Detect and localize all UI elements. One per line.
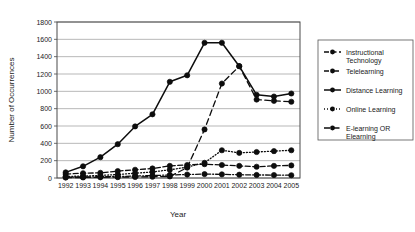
legend-label-line2: Technology xyxy=(346,57,382,65)
data-point xyxy=(219,148,224,153)
data-point xyxy=(219,172,224,177)
data-point xyxy=(237,64,242,69)
data-point xyxy=(219,162,224,167)
chart-legend: InstructionalTechnologyTelelearningDista… xyxy=(318,40,413,141)
x-tick-label: 1992 xyxy=(58,182,74,189)
y-tick-label: 400 xyxy=(40,140,52,147)
data-point xyxy=(271,98,276,103)
data-point xyxy=(237,163,242,168)
y-tick-label: 1600 xyxy=(36,36,52,43)
legend-label: E-learning OR xyxy=(346,125,390,133)
data-point xyxy=(185,172,190,177)
y-tick-label: 1800 xyxy=(36,19,52,26)
x-axis-title: Year xyxy=(170,210,187,219)
x-axis-tick-labels: 1992199319941995199619971998199920002001… xyxy=(58,182,299,189)
x-tick-label: 2005 xyxy=(284,182,300,189)
data-point xyxy=(167,167,172,172)
y-tick-label: 600 xyxy=(40,123,52,130)
data-point xyxy=(237,150,242,155)
data-point xyxy=(237,172,242,177)
data-point xyxy=(80,164,85,169)
y-axis-title: Number of Occurrences xyxy=(7,58,16,143)
legend-marker-sample xyxy=(330,126,335,131)
data-point xyxy=(115,142,120,147)
legend-label-line2: Elearning xyxy=(346,133,376,141)
data-point xyxy=(98,175,103,180)
legend-marker-sample xyxy=(330,88,335,93)
x-tick-label: 1997 xyxy=(145,182,161,189)
data-point xyxy=(63,175,68,180)
data-point xyxy=(202,127,207,132)
x-tick-label: 2001 xyxy=(214,182,230,189)
data-point xyxy=(133,124,138,129)
data-point xyxy=(289,173,294,178)
x-tick-label: 2000 xyxy=(197,182,213,189)
data-point xyxy=(185,73,190,78)
x-tick-label: 1998 xyxy=(162,182,178,189)
data-point xyxy=(115,175,120,180)
data-point xyxy=(150,174,155,179)
y-tick-label: 1200 xyxy=(36,71,52,78)
chart-container: 020040060080010001200140016001800 199219… xyxy=(0,0,415,232)
data-point xyxy=(167,79,172,84)
data-point xyxy=(167,174,172,179)
occurrences-line-chart: 020040060080010001200140016001800 199219… xyxy=(0,0,415,232)
data-point xyxy=(202,172,207,177)
x-tick-label: 1994 xyxy=(93,182,109,189)
legend-label: Online Learning xyxy=(346,106,396,114)
data-point xyxy=(254,97,259,102)
data-point xyxy=(219,40,224,45)
y-tick-label: 1400 xyxy=(36,53,52,60)
legend-label: Telelearning xyxy=(346,68,384,76)
legend-marker-sample xyxy=(330,69,335,74)
data-point xyxy=(271,149,276,154)
data-point xyxy=(219,81,224,86)
data-point xyxy=(133,174,138,179)
x-tick-label: 2004 xyxy=(266,182,282,189)
data-point xyxy=(289,99,294,104)
data-point xyxy=(80,175,85,180)
x-tick-label: 1993 xyxy=(75,182,91,189)
data-point xyxy=(98,155,103,160)
data-point xyxy=(289,148,294,153)
y-tick-label: 0 xyxy=(48,175,52,182)
data-point xyxy=(185,165,190,170)
data-point xyxy=(254,172,259,177)
x-tick-label: 1996 xyxy=(127,182,143,189)
legend-marker-sample xyxy=(330,50,335,55)
y-tick-label: 1000 xyxy=(36,88,52,95)
data-point xyxy=(254,149,259,154)
data-point xyxy=(271,172,276,177)
data-point xyxy=(202,40,207,45)
x-tick-label: 2003 xyxy=(249,182,265,189)
data-point xyxy=(202,160,207,165)
data-point xyxy=(289,91,294,96)
data-point xyxy=(271,163,276,168)
legend-label: Distance Learning xyxy=(346,87,403,95)
data-point xyxy=(150,169,155,174)
data-point xyxy=(254,164,259,169)
y-tick-label: 800 xyxy=(40,105,52,112)
data-point xyxy=(150,112,155,117)
y-tick-label: 200 xyxy=(40,157,52,164)
legend-label: Instructional xyxy=(346,49,384,56)
x-tick-label: 2002 xyxy=(231,182,247,189)
data-point xyxy=(289,163,294,168)
legend-marker-sample xyxy=(330,107,335,112)
x-tick-label: 1999 xyxy=(179,182,195,189)
x-tick-label: 1995 xyxy=(110,182,126,189)
